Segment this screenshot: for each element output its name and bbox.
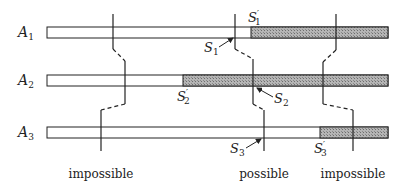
svg-text:S2: S2	[274, 91, 289, 108]
row-label-a3: A3	[16, 124, 34, 142]
svg-text:S3: S3	[230, 141, 245, 158]
bar-a2-shaded	[183, 75, 388, 86]
arrow-s2	[257, 88, 273, 97]
annotation-s1p: S′1	[248, 9, 261, 27]
arrow-s3	[246, 139, 261, 148]
bar-a3-shaded	[320, 127, 388, 138]
annotation-s2p: S′2	[177, 88, 190, 106]
annotation-s3: S3	[230, 139, 261, 158]
outcome-middle: possible	[239, 167, 289, 181]
svg-text:S′3: S′3	[314, 140, 327, 158]
outcome-right: impossible	[321, 167, 386, 181]
row-a1: A1	[16, 24, 388, 42]
annotation-s3p: S′3	[314, 140, 327, 158]
row-a2: A2	[16, 72, 388, 90]
annotation-s1: S1	[204, 38, 233, 57]
row-label-a2: A2	[16, 72, 34, 90]
svg-text:S1: S1	[204, 40, 219, 57]
row-label-a1: A1	[16, 24, 34, 42]
diagram-canvas: A1 A2 A3 S′1	[0, 0, 419, 190]
bar-a1-shaded	[251, 27, 388, 38]
svg-text:S′2: S′2	[177, 88, 190, 106]
annotation-s2: S2	[257, 88, 289, 108]
row-a3: A3	[16, 124, 388, 142]
arrow-s1	[219, 38, 233, 47]
svg-text:S′1: S′1	[248, 9, 261, 27]
outcome-left: impossible	[69, 167, 134, 181]
